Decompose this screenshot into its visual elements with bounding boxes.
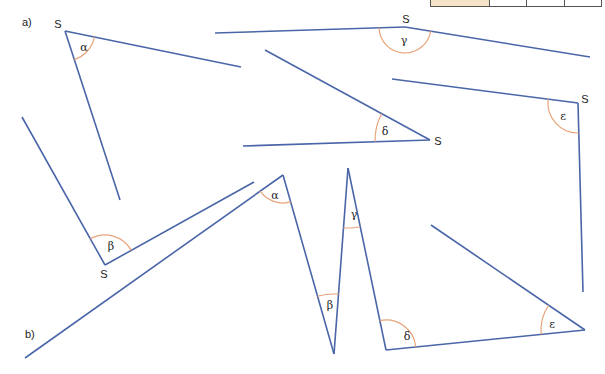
angle-arc-b-beta [318, 294, 339, 296]
vertex-label-epsilon: S [581, 93, 588, 105]
vertex-label-gamma: S [402, 13, 409, 25]
angle-symbol-b-beta: β [327, 299, 333, 312]
polyline-segment [431, 225, 585, 330]
angle-diagram [0, 0, 605, 374]
angle-symbol-delta: δ [382, 125, 389, 138]
angle-arc-b-gamma [343, 227, 360, 228]
angle-arm-gamma [215, 27, 405, 33]
angle-arm-epsilon [578, 103, 583, 292]
angle-symbol-beta: β [108, 240, 114, 253]
angle-arm-beta [22, 117, 105, 265]
angle-arm-alpha [65, 31, 241, 67]
vertex-label-beta: S [100, 268, 107, 280]
vertex-label-alpha: S [54, 18, 61, 30]
angle-symbol-epsilon: ε [560, 110, 566, 123]
angle-arc-b-epsilon [541, 305, 549, 334]
polyline-segment [334, 168, 348, 354]
angle-arm-beta [105, 182, 254, 265]
angle-symbol-alpha: α [80, 41, 87, 54]
polyline-segment [386, 330, 585, 350]
angle-arm-gamma [405, 27, 590, 57]
section-b-label: b) [25, 328, 35, 340]
angle-symbol-gamma: γ [401, 34, 408, 47]
polyline-segment [25, 175, 283, 358]
vertex-label-delta: S [434, 135, 441, 147]
angle-arm-alpha [65, 31, 120, 200]
angle-arm-delta [243, 140, 430, 146]
angle-symbol-b-alpha: α [271, 189, 278, 202]
angle-symbol-b-delta: δ [404, 330, 411, 343]
angle-symbol-b-epsilon: ε [549, 318, 555, 331]
angle-symbol-b-gamma: γ [351, 208, 358, 221]
angle-arm-epsilon [392, 79, 578, 103]
section-a-label: a) [22, 16, 32, 28]
angle-arm-delta [265, 50, 430, 140]
polyline-segment [348, 168, 386, 350]
